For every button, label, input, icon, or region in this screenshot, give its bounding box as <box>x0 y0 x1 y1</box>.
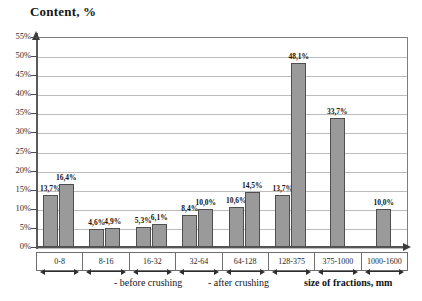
x-axis-arrow-icon <box>403 243 411 251</box>
category-span-line <box>44 271 75 272</box>
y-axis-tick-label: 55% <box>0 31 31 41</box>
y-axis-tick-label: 45% <box>0 69 31 79</box>
y-axis-tick <box>31 228 38 229</box>
chart-title: Content, % <box>30 4 96 20</box>
category-label: 64-128 <box>234 257 257 266</box>
category-cell: 375-1000 <box>315 253 361 270</box>
y-axis-tick-label: 30% <box>0 126 31 136</box>
y-axis-tick-label: 0% <box>0 241 31 251</box>
y-axis-tick-label: 40% <box>0 88 31 98</box>
legend-item-before-crushing: - before crushing <box>114 277 182 288</box>
category-cell: 8-16 <box>83 253 129 270</box>
category-span-line <box>369 271 400 272</box>
gridline <box>36 229 407 230</box>
category-span-line <box>137 271 168 272</box>
category-span-line <box>230 271 261 272</box>
y-axis-tick <box>31 75 38 76</box>
category-span-marker-icon <box>86 268 125 275</box>
category-span-line <box>183 271 214 272</box>
y-axis-arrow-icon <box>32 31 40 40</box>
category-cell: 1000-1600 <box>362 253 407 270</box>
y-axis-tick <box>31 113 38 114</box>
y-axis-tick-label: 10% <box>0 203 31 213</box>
category-cell: 0-8 <box>37 253 83 270</box>
y-axis-tick <box>31 152 38 153</box>
category-span-marker-icon <box>365 268 404 275</box>
category-cell: 16-32 <box>130 253 176 270</box>
category-axis: 0-88-1616-3232-6464-128128-375375-100010… <box>36 252 408 271</box>
x-axis-label: size of fractions, mm <box>304 277 392 288</box>
y-axis-tick <box>31 94 38 95</box>
y-axis-tick-label: 15% <box>0 184 31 194</box>
category-span-marker-icon <box>179 268 218 275</box>
legend-item-after-crushing: - after crushing <box>208 277 269 288</box>
category-span-line <box>90 271 121 272</box>
y-axis-tick <box>31 209 38 210</box>
y-axis-tick <box>31 190 38 191</box>
category-cell: 32-64 <box>176 253 222 270</box>
category-span-marker-icon <box>272 268 311 275</box>
y-axis-tick-label: 25% <box>0 146 31 156</box>
category-label: 128-375 <box>278 257 305 266</box>
category-label: 8-16 <box>99 257 114 266</box>
y-axis-tick-label: 5% <box>0 222 31 232</box>
y-axis-tick <box>31 171 38 172</box>
category-label: 16-32 <box>143 257 162 266</box>
y-axis-tick-label: 50% <box>0 50 31 60</box>
category-span-line <box>322 271 353 272</box>
y-axis-tick-label: 20% <box>0 165 31 175</box>
category-span-line <box>276 271 307 272</box>
category-span-marker-icon <box>40 268 79 275</box>
y-axis-tick-label: 35% <box>0 107 31 117</box>
bar-chart: Content, % 0%5%10%15%20%25%30%35%40%45%5… <box>0 0 422 301</box>
category-cell: 64-128 <box>223 253 269 270</box>
chart-footer: - before crushing - after crushing size … <box>36 277 416 293</box>
gridline <box>36 172 407 173</box>
gridline <box>36 248 407 249</box>
x-axis-line <box>36 246 406 248</box>
y-axis-tick <box>31 132 38 133</box>
gridline <box>36 210 407 211</box>
gridline <box>36 133 407 134</box>
category-span-marker-icon <box>226 268 265 275</box>
category-label: 0-8 <box>54 257 65 266</box>
gridline <box>36 95 407 96</box>
y-axis-tick <box>31 56 38 57</box>
category-label: 375-1000 <box>323 257 354 266</box>
gridline <box>36 76 407 77</box>
y-axis-line <box>36 33 38 249</box>
category-label: 1000-1600 <box>367 257 402 266</box>
plot-area <box>36 37 408 247</box>
category-span-marker-icon <box>133 268 172 275</box>
gridline <box>36 191 407 192</box>
gridline <box>36 57 407 58</box>
category-label: 32-64 <box>189 257 208 266</box>
category-cell: 128-375 <box>269 253 315 270</box>
category-span-marker-icon <box>318 268 357 275</box>
gridline <box>36 114 407 115</box>
gridline <box>36 153 407 154</box>
y-axis-tick <box>31 37 38 38</box>
